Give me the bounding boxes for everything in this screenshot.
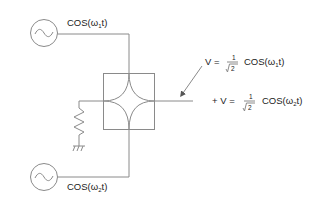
mixer-arc <box>104 101 130 130</box>
output-equation-2: + V = 1 2 COS(ω2t) <box>212 93 302 111</box>
equation-lhs: V = <box>205 56 220 67</box>
resistor-termination <box>73 101 104 151</box>
hybrid-mixer <box>104 73 155 130</box>
equation-function: COS(ω2t) <box>262 95 302 107</box>
output-equation-1: V = 1 2 COS(ω1t) <box>205 54 284 72</box>
wire-source-bottom <box>58 130 130 178</box>
resistor-icon <box>74 108 84 135</box>
mixer-diagram: COS(ω1t) COS(ω2t) V = 1 <box>0 0 320 211</box>
source-top-label: COS(ω1t) <box>67 17 107 29</box>
source-bottom-label: COS(ω2t) <box>67 181 107 193</box>
ac-source-bottom <box>31 164 58 191</box>
wire-source-top <box>58 34 130 73</box>
ground-icon <box>73 146 85 151</box>
mixer-arc <box>129 101 155 130</box>
mixer-arc <box>129 73 155 101</box>
arrow-icon <box>183 66 202 93</box>
equation-lhs: + V = <box>212 95 235 106</box>
wire-termination <box>79 101 104 108</box>
sine-wave-icon <box>35 173 53 180</box>
mixer-arc <box>104 73 130 101</box>
equation-function: COS(ω1t) <box>244 56 284 68</box>
sine-wave-icon <box>35 29 53 36</box>
ac-source-top <box>31 20 58 47</box>
fraction-numerator: 1 <box>232 54 236 61</box>
fraction-denominator: 2 <box>231 65 235 72</box>
fraction-denominator: 2 <box>248 104 252 111</box>
fraction-numerator: 1 <box>249 93 253 100</box>
